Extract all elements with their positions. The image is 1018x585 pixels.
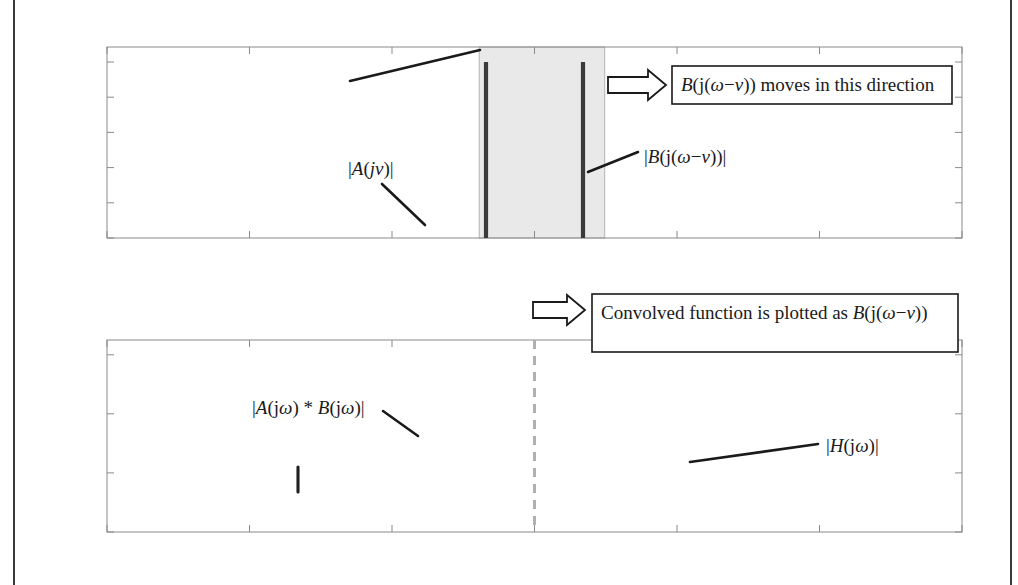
label-a-jv-leader — [382, 184, 425, 225]
callout-b-moves: B(j(ω−v)) moves in this direction — [608, 66, 952, 104]
overlapping-window-shade — [479, 47, 605, 238]
callout-b-moves-text: moves in this direction — [761, 74, 935, 95]
figure-root: |A(jv)| |B(j(ω−v))| B(j(ω−v)) moves in t… — [0, 0, 1018, 585]
label-h-leader — [690, 444, 818, 462]
label-a-jv: |A(jv)| — [348, 158, 425, 225]
callout-convolved: Convolved function is plotted as B(j(ω−v… — [533, 294, 958, 352]
svg-text:Convolved function is plotted: Convolved function is plotted as B(j(ω−v… — [601, 302, 928, 324]
callout-convolved-line1: Convolved function is plotted as — [601, 302, 853, 323]
svg-text:|B(j(ω−v))|: |B(j(ω−v))| — [644, 146, 726, 168]
label-b-j-omega-minus-v: |B(j(ω−v))| — [588, 146, 726, 172]
top-panel-chart: |A(jv)| |B(j(ω−v))| B(j(ω−v)) moves in t… — [0, 0, 1018, 292]
overlapping-window-leader — [350, 50, 480, 81]
bottom-panel-chart: |A(jω) * B(jω)| |H(jω)| Convolved functi… — [0, 292, 1018, 585]
svg-text:|H(jω)|: |H(jω)| — [826, 435, 879, 457]
right-arrow-icon — [608, 70, 666, 100]
svg-text:|A(jv)|: |A(jv)| — [348, 158, 394, 180]
label-a-conv-b: |A(jω) * B(jω)| — [252, 397, 418, 436]
label-h-jomega: |H(jω)| — [690, 435, 879, 462]
right-arrow-icon-2 — [533, 295, 585, 325]
label-a-conv-b-leader — [383, 411, 418, 436]
svg-text:B(j(ω−v)) moves in this direct: B(j(ω−v)) moves in this direction — [681, 74, 935, 96]
svg-text:|A(jω) * B(jω)|: |A(jω) * B(jω)| — [252, 397, 365, 419]
